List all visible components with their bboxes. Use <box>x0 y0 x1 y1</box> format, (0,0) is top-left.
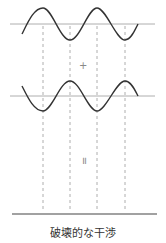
destructive-interference-diagram <box>0 0 166 243</box>
equals-operator: = <box>79 157 89 165</box>
dashed-guides <box>43 26 125 212</box>
plus-operator: + <box>79 61 87 71</box>
diagram-caption: 破壊的な干渉 <box>0 224 166 240</box>
